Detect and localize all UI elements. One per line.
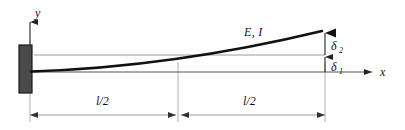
delta-2-symbol: δ — [331, 39, 337, 53]
delta-2-label: δ 2 — [331, 39, 343, 55]
delta-2-subscript: 2 — [339, 46, 343, 55]
y-axis-label: y — [34, 6, 41, 20]
delta-1-subscript: 1 — [339, 67, 343, 76]
deflected-beam-curve — [31, 31, 322, 72]
beam-property-label: E, I — [243, 25, 263, 39]
x-axis-label: x — [379, 65, 386, 79]
left-half-span-label: l/2 — [96, 94, 109, 108]
delta-1-label: δ 1 — [331, 60, 343, 76]
right-half-span-label: l/2 — [243, 94, 256, 108]
fixed-support-block — [19, 45, 32, 93]
beam-deflection-diagram: y x E, I l/2 l/2 δ 2 δ 1 — [0, 0, 405, 130]
diagram-canvas: y x E, I l/2 l/2 δ 2 δ 1 — [0, 0, 405, 130]
delta-1-symbol: δ — [331, 60, 337, 74]
